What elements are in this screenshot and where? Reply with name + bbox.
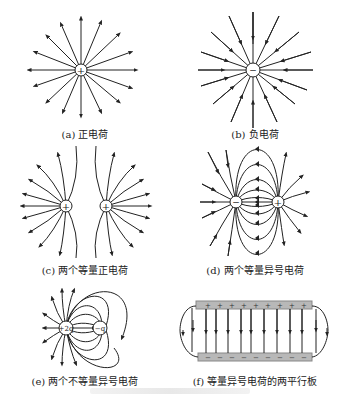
svg-text:+: + (241, 302, 247, 310)
svg-text:−: − (277, 354, 283, 362)
svg-text:+: + (205, 302, 211, 310)
svg-text:−: − (205, 354, 211, 362)
svg-text:+: + (274, 197, 282, 208)
svg-text:+: + (277, 302, 283, 310)
caption-c: (c) 两个等量正电荷 (0, 262, 170, 277)
caption-e: (e) 两个不等量异号电荷 (0, 373, 170, 388)
caption-f: (f) 等量异号电荷的两平行板 (170, 373, 340, 388)
svg-text:−: − (217, 354, 223, 362)
panel-f-parallel-plates: +++ +++ +++ −−− −−− −−− (180, 301, 328, 362)
svg-text:+: + (62, 201, 70, 212)
panel-e-unequal-charges: +2q −q (44, 290, 127, 368)
svg-text:−: − (289, 354, 295, 362)
svg-text:−: − (232, 197, 240, 207)
figure-caption-faded (90, 388, 250, 394)
caption-d: (d) 两个等量异号电荷 (170, 262, 340, 277)
panel-c-two-positive-charges: + + (22, 146, 150, 258)
svg-text:−: − (301, 354, 307, 362)
svg-text:+: + (265, 302, 271, 310)
electric-field-diagram: + − (0, 0, 340, 399)
svg-text:−: − (265, 354, 271, 362)
caption-b: (b) 负电荷 (170, 126, 340, 141)
svg-text:−: − (241, 354, 247, 362)
panel-a-positive-charge: + (29, 18, 136, 116)
svg-text:+: + (102, 201, 110, 212)
svg-text:+: + (301, 302, 307, 310)
panel-d-dipole: − + (200, 146, 308, 256)
svg-text:+: + (289, 302, 295, 310)
svg-text:−q: −q (95, 325, 106, 333)
panel-b-negative-charge: − (198, 12, 313, 128)
svg-text:+: + (229, 302, 235, 310)
caption-a: (a) 正电荷 (0, 126, 170, 141)
svg-text:−: − (253, 354, 259, 362)
svg-text:−: − (229, 354, 235, 362)
svg-text:+: + (217, 302, 223, 310)
svg-text:+: + (77, 65, 85, 76)
svg-text:+2q: +2q (59, 325, 74, 333)
svg-text:+: + (253, 302, 259, 310)
svg-text:−: − (249, 65, 257, 75)
